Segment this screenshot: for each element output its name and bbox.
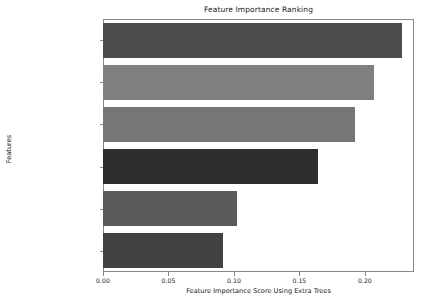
chart-figure: Feature Importance Ranking Thickness_ftE… [0,0,431,303]
y-tick-mark [100,167,104,168]
bar [103,149,318,184]
x-tick-label: 0.15 [293,277,307,284]
y-tick-mark [100,209,104,210]
x-tick-mark [103,272,104,276]
x-tick-label: 0.10 [227,277,241,284]
y-axis-label: Features [5,119,13,179]
bar [103,65,374,100]
y-tick-mark [100,40,104,41]
bar [103,233,223,268]
x-tick-mark [234,272,235,276]
x-tick-label: 0.00 [96,277,110,284]
y-tick-mark [100,124,104,125]
bar [103,191,237,226]
x-tick-mark [299,272,300,276]
chart-title: Feature Importance Ranking [103,5,414,14]
x-tick-label: 0.05 [162,277,176,284]
y-tick-mark [100,251,104,252]
y-tick-mark [100,82,104,83]
bar [103,107,355,142]
x-axis-label: Feature Importance Score Using Extra Tre… [103,287,414,295]
x-tick-mark [168,272,169,276]
bar [103,23,402,58]
x-tick-mark [365,272,366,276]
x-tick-label: 0.20 [358,277,372,284]
